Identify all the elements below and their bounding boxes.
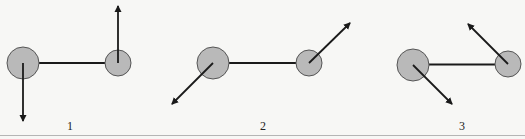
arrow-down-right-icon (413, 65, 452, 104)
panel-label-1: 1 (60, 119, 80, 134)
panel-mode-3 (397, 24, 521, 104)
arrow-down-left-icon (172, 63, 213, 104)
panel-mode-2 (172, 23, 350, 104)
bottom-divider (0, 135, 525, 136)
vibration-modes-figure: 1 2 3 (0, 0, 525, 139)
panel-label-3: 3 (452, 119, 472, 134)
arrow-up-right-icon (309, 23, 350, 63)
arrow-up-left-icon (468, 24, 508, 64)
panel-label-2: 2 (253, 119, 273, 134)
panel-mode-1 (7, 6, 131, 121)
